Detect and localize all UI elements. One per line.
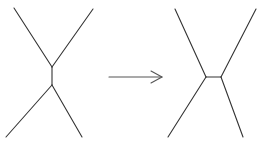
before-leaf-bottom-right <box>52 85 82 137</box>
after-leaf-bottom-left <box>168 77 206 137</box>
before-leaf-top-right <box>52 9 93 67</box>
transform-arrow-icon <box>109 71 162 83</box>
after-graph <box>168 9 256 137</box>
before-graph <box>6 8 93 137</box>
after-leaf-bottom-right <box>221 77 243 137</box>
before-leaf-bottom-left <box>6 85 52 137</box>
after-leaf-top-right <box>221 9 256 77</box>
graph-move-diagram <box>0 0 259 141</box>
before-leaf-top-left <box>14 8 52 67</box>
after-leaf-top-left <box>175 9 206 77</box>
